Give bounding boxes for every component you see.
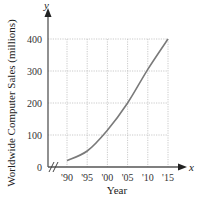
sales-curve xyxy=(67,39,168,161)
y-tick-label: 300 xyxy=(27,66,42,77)
x-tick-label: '10 xyxy=(142,172,154,183)
x-axis-label: Year xyxy=(107,184,128,196)
y-tick-label: 200 xyxy=(27,98,42,109)
x-tick-label: '00 xyxy=(101,172,113,183)
x-tick-label: '90 xyxy=(61,172,73,183)
x-tick-label: '95 xyxy=(81,172,93,183)
y-tick-labels: 0100200300400 xyxy=(27,34,42,173)
chart: y x 0100200300400 '90'95'00'05'10'15 Yea… xyxy=(0,0,199,201)
y-tick-label: 0 xyxy=(37,162,42,173)
x-axis-variable: x xyxy=(188,161,194,173)
x-axis-arrow-icon xyxy=(178,164,187,171)
x-tick-label: '05 xyxy=(122,172,134,183)
x-tick-labels: '90'95'00'05'10'15 xyxy=(61,172,174,183)
y-tick-label: 100 xyxy=(27,130,42,141)
x-tick-label: '15 xyxy=(162,172,174,183)
y-axis-variable: y xyxy=(43,0,49,11)
y-axis-label: Worldwide Computer Sales (millions) xyxy=(5,19,18,187)
axes: y x xyxy=(43,0,194,173)
grid-lines xyxy=(48,39,168,167)
y-tick-label: 400 xyxy=(27,34,42,45)
